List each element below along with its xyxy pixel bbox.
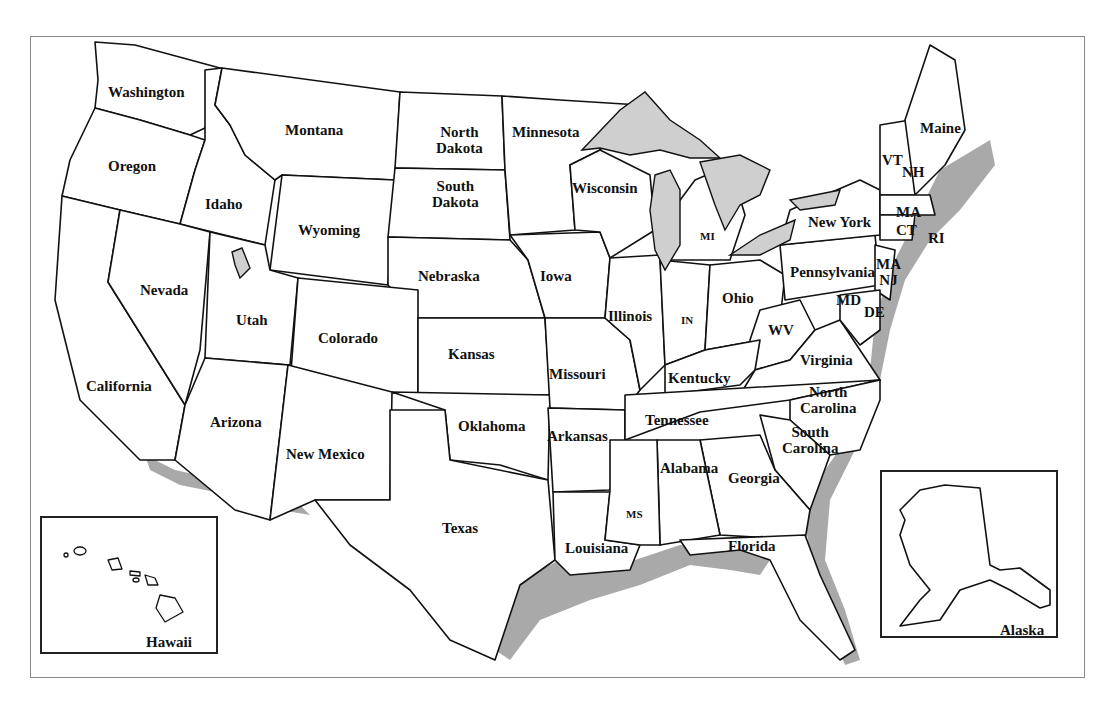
label-wa: Washington (108, 84, 185, 100)
label-mi: MI (700, 228, 715, 244)
label-nd: NorthDakota (436, 124, 483, 156)
label-ok: Oklahoma (458, 418, 526, 434)
label-or: Oregon (108, 158, 156, 174)
label-nj: MANJ (876, 256, 901, 288)
label-ks: Kansas (448, 346, 495, 362)
state-new-mexico (270, 365, 392, 520)
label-ny: New York (808, 214, 871, 230)
label-nc: NorthCarolina (800, 384, 856, 416)
label-in: IN (681, 312, 693, 328)
label-me: Maine (920, 120, 961, 136)
label-wi: Wisconsin (572, 180, 638, 196)
label-ms: MS (626, 506, 643, 522)
label-il: Illinois (608, 308, 652, 324)
label-fl: Florida (728, 538, 776, 554)
label-de: DE (864, 304, 885, 320)
label-ar: Arkansas (547, 428, 608, 444)
label-al: Alabama (660, 460, 718, 476)
state-mississippi (605, 440, 660, 545)
label-ga: Georgia (728, 470, 780, 486)
label-sd: SouthDakota (432, 178, 479, 210)
label-ak: Alaska (1000, 622, 1044, 638)
label-oh: Ohio (722, 290, 754, 306)
label-nv: Nevada (140, 282, 188, 298)
label-nm: New Mexico (286, 446, 365, 462)
label-ia: Iowa (540, 268, 572, 284)
label-wy: Wyoming (298, 222, 360, 238)
label-wv: WV (768, 322, 794, 338)
label-nh: NH (902, 164, 925, 180)
label-ca: California (86, 378, 152, 394)
label-mt: Montana (285, 122, 343, 138)
label-ky: Kentucky (668, 370, 731, 386)
alaska-inset (880, 470, 1058, 638)
label-ct: CT (896, 222, 917, 238)
label-ma: MA (896, 204, 921, 220)
label-ne: Nebraska (418, 268, 480, 284)
label-mo: Missouri (549, 366, 606, 382)
label-va: Virginia (800, 352, 853, 368)
label-tx: Texas (442, 520, 478, 536)
label-tn: Tennessee (645, 412, 709, 428)
label-ri: RI (928, 230, 945, 246)
label-pa: Pennsylvania (790, 264, 875, 280)
label-mn: Minnesota (512, 124, 580, 140)
label-la: Louisiana (565, 540, 628, 556)
label-hi: Hawaii (146, 634, 192, 650)
label-id: Idaho (205, 196, 243, 212)
label-sc: SouthCarolina (782, 424, 838, 456)
label-co: Colorado (318, 330, 378, 346)
state-new-york (780, 180, 880, 245)
label-vt: VT (882, 152, 903, 168)
label-az: Arizona (210, 414, 262, 430)
label-md: MD (836, 292, 861, 308)
label-ut: Utah (236, 312, 268, 328)
